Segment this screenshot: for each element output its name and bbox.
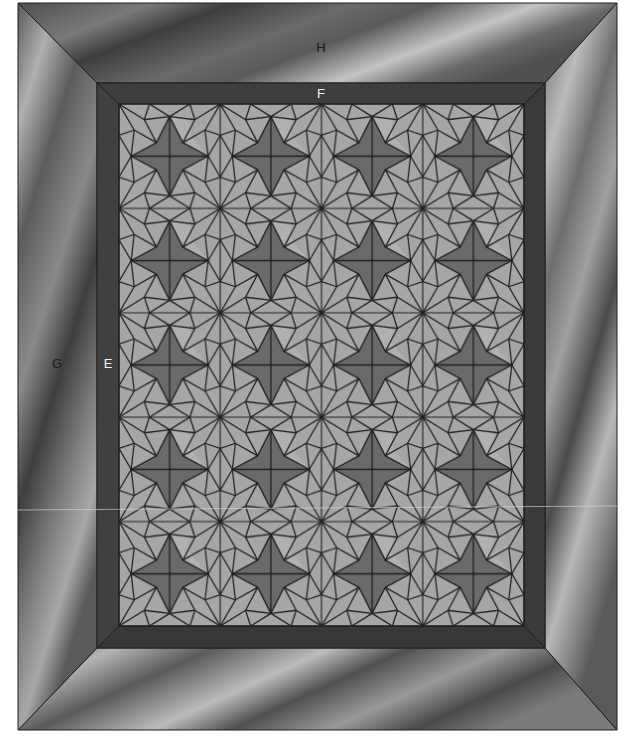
label-inner-border-left: E bbox=[104, 357, 113, 371]
label-inner-border-top: F bbox=[317, 87, 325, 101]
inner-border-bottom bbox=[97, 626, 545, 648]
label-outer-border-left: G bbox=[52, 357, 62, 371]
inner-border-right bbox=[524, 83, 545, 648]
label-outer-border-top: H bbox=[316, 41, 325, 55]
outer-border-right bbox=[545, 3, 617, 730]
outer-border-bottom bbox=[18, 648, 617, 730]
quilt-block-field bbox=[119, 104, 524, 626]
quilt-diagram bbox=[0, 0, 634, 745]
